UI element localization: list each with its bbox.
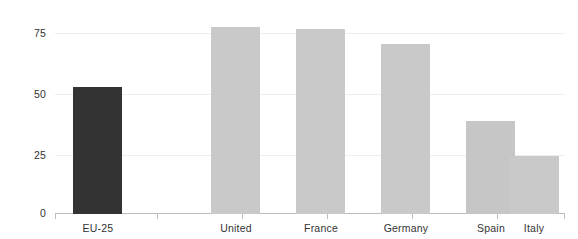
- y-tick-label-75: 75: [34, 28, 46, 39]
- bar-spain: [466, 121, 515, 214]
- x-label-germany: Germany: [369, 222, 443, 235]
- bar-italy: [510, 156, 559, 214]
- x-tick-2: [242, 214, 243, 219]
- y-tick-label-25: 25: [34, 150, 46, 161]
- x-label-france: France: [285, 222, 357, 235]
- bars-layer: [55, 20, 565, 214]
- x-label-united: United: [200, 222, 272, 235]
- plot-area: [55, 20, 565, 214]
- y-tick-label-0: 0: [40, 208, 46, 219]
- x-tick-1: [157, 214, 158, 219]
- x-tick-5: [497, 214, 498, 219]
- x-label-eu-25: EU-25: [63, 222, 133, 235]
- x-label-italy: Italy: [498, 222, 570, 235]
- y-axis: 75 50 25 0: [0, 0, 46, 239]
- y-tick-label-50: 50: [34, 89, 46, 100]
- bar-france: [296, 29, 345, 214]
- bar-germany: [381, 44, 430, 214]
- x-tick-0: [55, 214, 56, 219]
- x-tick-4: [412, 214, 413, 219]
- bar-eu-25: [73, 87, 122, 214]
- x-tick-6: [564, 214, 565, 219]
- bar-united: [211, 27, 260, 214]
- x-tick-3: [327, 214, 328, 219]
- x-axis-labels: EU-25 United France Germany Spain Italy: [55, 220, 565, 239]
- bar-chart: 75 50 25 0 EU-25 United France Ge: [0, 0, 578, 239]
